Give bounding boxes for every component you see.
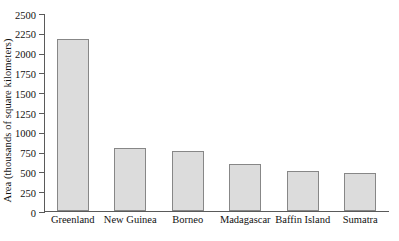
bar [114,148,146,211]
x-category-label: New Guinea [102,214,160,225]
bar [344,173,376,211]
bar [287,171,319,211]
bar-chart: Area (thousands of square kilometers) 02… [0,0,399,241]
y-tick-label: 750 [20,148,36,159]
x-category-label: Sumatra [332,214,390,225]
y-axis-title: Area (thousands of square kilometers) [0,0,14,241]
y-tick-mark: 0 [39,212,44,213]
y-tick-label: 1250 [15,108,36,119]
y-tick-label: 2500 [15,9,36,20]
y-tick-label: 500 [20,167,36,178]
bar [172,151,204,211]
x-category-label: Madagascar [217,214,275,225]
y-tick-label: 250 [20,187,36,198]
x-category-label: Greenland [44,214,102,225]
x-axis-category-labels: GreenlandNew GuineaBorneoMadagascarBaffi… [44,214,389,232]
bar [229,164,261,211]
plot-area: 02505007501000125015001750200022502500 [44,14,389,212]
y-tick-label: 1000 [15,128,36,139]
y-tick-label: 1500 [15,88,36,99]
bar [57,39,89,211]
y-tick-label: 1750 [15,68,36,79]
y-tick-label: 2250 [15,29,36,40]
x-category-label: Baffin Island [274,214,332,225]
y-tick-label: 0 [31,207,36,218]
y-tick-label: 2000 [15,49,36,60]
x-axis-line [44,211,389,212]
x-category-label: Borneo [159,214,217,225]
bar-series [44,13,389,211]
